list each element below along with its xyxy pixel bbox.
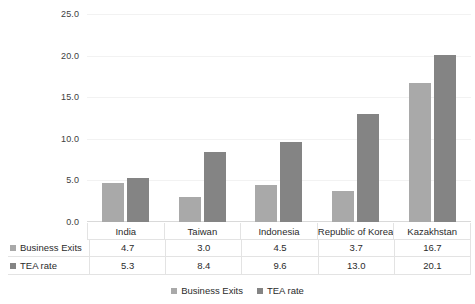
- legend-label: TEA rate: [267, 285, 304, 296]
- table-cell: 16.7: [394, 239, 471, 256]
- bar-chart-figure: 0.05.010.015.020.025.0 IndiaTaiwanIndone…: [0, 0, 475, 304]
- bar-group: [241, 14, 318, 222]
- bar-group: [317, 14, 394, 222]
- table-cell: 5.3: [89, 257, 165, 274]
- legend-swatch-icon: [171, 288, 177, 294]
- series-swatch-icon: [10, 245, 16, 251]
- table-cell: 3.7: [318, 239, 394, 256]
- table-cell: 4.5: [241, 239, 317, 256]
- table-row: Business Exits4.73.04.53.716.7: [8, 239, 471, 257]
- table-row-header: Business Exits: [8, 239, 89, 256]
- series-name: TEA rate: [20, 260, 57, 271]
- bar: [280, 142, 302, 222]
- category-label: India: [87, 223, 164, 239]
- chart-legend: Business ExitsTEA rate: [0, 285, 475, 296]
- bar: [434, 55, 456, 222]
- table-row-values: 5.38.49.613.020.1: [89, 257, 471, 274]
- y-tick-label: 20.0: [61, 51, 79, 61]
- bar: [179, 197, 201, 222]
- bar: [102, 183, 124, 222]
- legend-swatch-icon: [257, 288, 263, 294]
- series-swatch-icon: [10, 263, 16, 269]
- y-tick-label: 15.0: [61, 92, 79, 102]
- category-label: Indonesia: [240, 223, 317, 239]
- y-tick-label: 25.0: [61, 9, 79, 19]
- category-label: Taiwan: [164, 223, 241, 239]
- chart-data-table: Business Exits4.73.04.53.716.7TEA rate5.…: [8, 239, 471, 274]
- legend-label: Business Exits: [181, 285, 243, 296]
- series-name: Business Exits: [20, 242, 82, 253]
- bar-group: [164, 14, 241, 222]
- table-cell: 9.6: [241, 257, 317, 274]
- table-row: TEA rate5.38.49.613.020.1: [8, 257, 471, 275]
- y-tick-label: 5.0: [66, 175, 79, 185]
- table-row-values: 4.73.04.53.716.7: [89, 239, 471, 256]
- plot-area: [87, 14, 471, 222]
- table-cell: 3.0: [165, 239, 241, 256]
- bar: [409, 83, 431, 222]
- table-cell: 8.4: [165, 257, 241, 274]
- y-tick-label: 10.0: [61, 134, 79, 144]
- bar: [204, 152, 226, 222]
- bar: [127, 178, 149, 222]
- bar: [357, 114, 379, 222]
- category-label: Republic of Korea: [317, 223, 394, 239]
- bar: [255, 185, 277, 222]
- bars-layer: [87, 14, 471, 222]
- category-axis-row: IndiaTaiwanIndonesiaRepublic of KoreaKaz…: [87, 223, 471, 240]
- legend-item[interactable]: TEA rate: [257, 285, 304, 296]
- table-cell: 13.0: [318, 257, 394, 274]
- legend-item[interactable]: Business Exits: [171, 285, 243, 296]
- category-label: Kazakhstan: [393, 223, 471, 239]
- table-cell: 20.1: [394, 257, 471, 274]
- table-cell: 4.7: [89, 239, 165, 256]
- y-axis: 0.05.010.015.020.025.0: [0, 0, 85, 222]
- bar: [332, 191, 354, 222]
- bar-group: [87, 14, 164, 222]
- y-tick-label: 0.0: [66, 217, 79, 227]
- bar-group: [394, 14, 471, 222]
- table-row-header: TEA rate: [8, 257, 89, 274]
